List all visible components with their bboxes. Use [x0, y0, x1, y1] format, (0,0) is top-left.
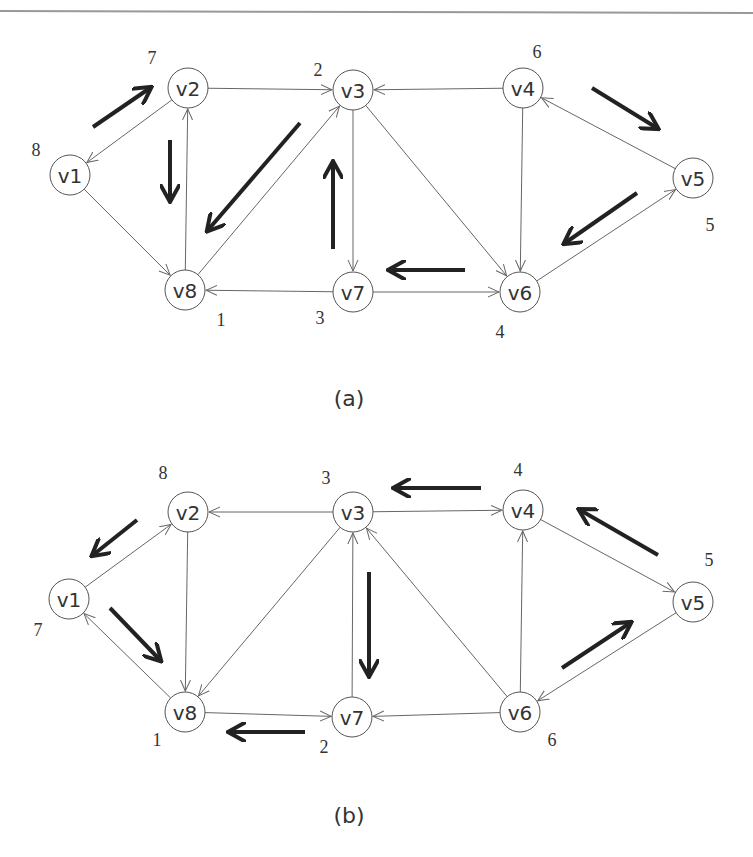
node-label: v1 — [58, 164, 83, 188]
node-label: v2 — [176, 77, 201, 101]
graph-node-v6: v6 — [500, 692, 540, 732]
edge-v4-to-v3 — [374, 88, 503, 90]
edge-v5-to-v6 — [538, 613, 676, 701]
edge-v2-to-v8 — [185, 532, 187, 691]
traversal-arrow-icon — [565, 193, 637, 243]
node-label: v8 — [173, 279, 198, 303]
label-layer: 87265431(a)78345621(b) — [32, 42, 715, 828]
order-number-v7: 3 — [316, 308, 325, 328]
order-number-v3: 3 — [322, 468, 331, 488]
edge-v7-to-v3 — [352, 533, 353, 697]
traversal-arrow-icon — [580, 510, 658, 555]
node-layer: v1v2v3v4v5v6v7v8v1v2v3v4v5v6v7v8 — [49, 68, 713, 737]
order-number-v2: 8 — [159, 463, 168, 483]
node-label: v7 — [341, 281, 366, 305]
order-number-v3: 2 — [314, 60, 323, 80]
graph-node-v6: v6 — [500, 272, 540, 312]
graph-node-v1: v1 — [50, 155, 90, 195]
graph-figure: v1v2v3v4v5v6v7v8v1v2v3v4v5v6v7v8 8726543… — [0, 0, 753, 857]
graph-node-v4: v4 — [503, 490, 543, 530]
node-label: v4 — [511, 77, 536, 101]
node-label: v5 — [681, 167, 706, 191]
node-label: v8 — [173, 701, 198, 725]
traversal-arrow-icon — [592, 88, 657, 128]
graph-node-v2: v2 — [168, 68, 208, 108]
node-label: v6 — [508, 701, 533, 725]
graph-node-v7: v7 — [333, 272, 373, 312]
edge-v1-to-v2 — [85, 524, 171, 587]
graph-node-v2: v2 — [168, 492, 208, 532]
traversal-arrow-icon — [110, 608, 160, 660]
node-label: v4 — [511, 499, 536, 523]
order-number-v6: 6 — [548, 730, 557, 750]
graph-node-v5: v5 — [673, 582, 713, 622]
order-number-v8: 1 — [153, 730, 162, 750]
order-number-v1: 7 — [34, 620, 43, 640]
edge-v6-to-v4 — [520, 531, 522, 692]
order-number-v5: 5 — [706, 215, 715, 235]
graph-node-v8: v8 — [165, 270, 205, 310]
order-number-v2: 7 — [148, 48, 157, 68]
order-number-v8: 1 — [217, 310, 226, 330]
edge-v3-to-v6 — [366, 105, 507, 275]
graph-node-v7: v7 — [332, 697, 372, 737]
order-number-v4: 4 — [514, 460, 523, 480]
traversal-arrow-icon — [562, 623, 630, 668]
order-number-v6: 4 — [496, 322, 505, 342]
edge-v6-to-v5 — [537, 190, 676, 281]
traversal-arrow-layer — [93, 88, 658, 732]
node-label: v5 — [681, 591, 706, 615]
order-number-v5: 5 — [705, 550, 714, 570]
edge-v3-to-v4 — [373, 510, 502, 512]
edge-v5-to-v4 — [542, 98, 676, 169]
node-label: v2 — [176, 501, 201, 525]
edge-v8-to-v7 — [205, 713, 331, 717]
traversal-arrow-icon — [93, 88, 150, 127]
node-label: v3 — [341, 79, 366, 103]
graph-node-v8: v8 — [165, 692, 205, 732]
graph-node-v4: v4 — [503, 68, 543, 108]
edge-v3-to-v8 — [199, 527, 341, 696]
edge-v7-to-v8 — [206, 290, 333, 292]
traversal-arrow-icon — [208, 123, 300, 230]
edge-v1-to-v8 — [84, 189, 170, 275]
edge-v8-to-v2 — [185, 109, 187, 270]
graph-node-v3: v3 — [333, 492, 373, 532]
graph-node-v1: v1 — [49, 579, 89, 619]
figure-caption-a: (a) — [334, 386, 365, 411]
order-number-v4: 6 — [533, 42, 542, 62]
figure-caption-b: (b) — [333, 803, 364, 828]
edge-v6-to-v7 — [373, 713, 500, 717]
edge-v2-to-v3 — [208, 88, 332, 90]
node-label: v1 — [57, 588, 82, 612]
edge-v4-to-v6 — [520, 108, 522, 271]
edge-layer — [84, 88, 676, 716]
edge-v8-to-v3 — [198, 106, 340, 275]
edge-v2-to-v1 — [87, 100, 172, 163]
node-label: v3 — [341, 501, 366, 525]
graph-node-v5: v5 — [673, 158, 713, 198]
node-label: v6 — [508, 281, 533, 305]
node-label: v7 — [340, 706, 365, 730]
order-number-v1: 8 — [32, 140, 41, 160]
edge-v6-to-v3 — [366, 528, 507, 697]
edge-v4-to-v5 — [541, 520, 675, 592]
order-number-v7: 2 — [320, 737, 329, 757]
traversal-arrow-icon — [93, 520, 137, 555]
graph-node-v3: v3 — [333, 70, 373, 110]
